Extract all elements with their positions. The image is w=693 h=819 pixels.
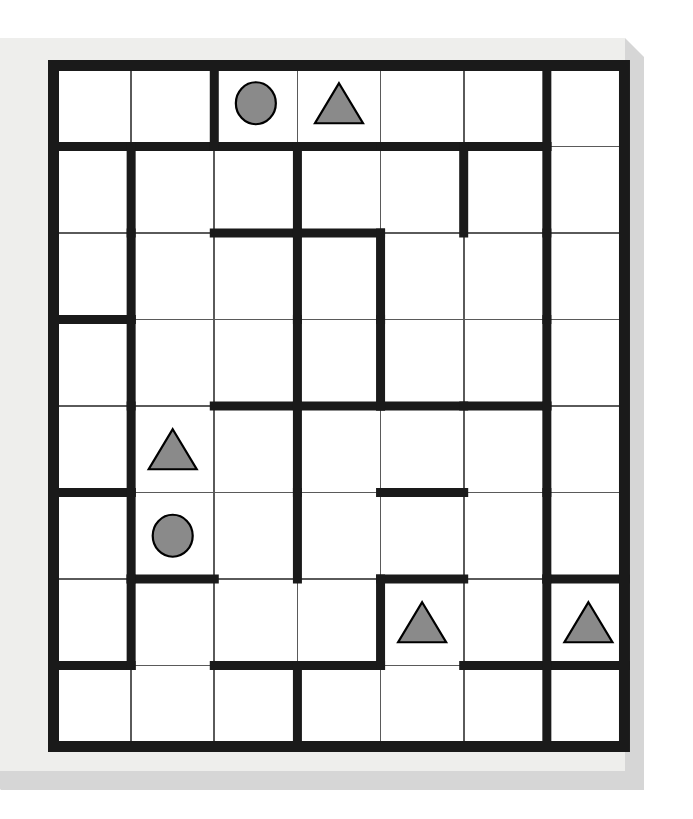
wall-segment-vertical	[293, 661, 302, 752]
wall-segment-horizontal	[376, 575, 468, 584]
wall-segment-horizontal	[293, 661, 385, 670]
wall-segment-vertical	[293, 229, 302, 325]
circle-icon[interactable]	[236, 82, 276, 124]
wall-segment-horizontal	[48, 142, 136, 151]
wall-segment-vertical	[127, 142, 136, 238]
wall-segment-vertical	[542, 60, 551, 151]
maze-board[interactable]	[48, 60, 630, 752]
wall-segment-vertical	[542, 488, 551, 584]
wall-segment-vertical	[542, 229, 551, 325]
wall-segment-horizontal	[48, 661, 136, 670]
maze-svg[interactable]	[48, 60, 630, 752]
wall-segment-vertical	[127, 229, 136, 325]
wall-segment-vertical	[542, 315, 551, 411]
wall-segment-horizontal	[127, 575, 219, 584]
wall-segment-vertical	[127, 575, 136, 671]
wall-segment-horizontal	[127, 142, 219, 151]
wall-segment-horizontal	[48, 315, 136, 324]
wall-segment-horizontal	[376, 488, 468, 497]
wall-segment-horizontal	[459, 661, 551, 670]
wall-segment-horizontal	[210, 661, 302, 670]
wall-segment-vertical	[210, 60, 219, 151]
wall-segment-horizontal	[293, 402, 385, 411]
wall-segment-horizontal	[542, 575, 630, 584]
wall-segment-vertical	[459, 142, 468, 238]
wall-segment-horizontal	[376, 142, 468, 151]
wall-segment-horizontal	[376, 402, 468, 411]
wall-segment-vertical	[293, 142, 302, 238]
wall-segment-vertical	[293, 402, 302, 498]
maze-shape-circle[interactable]	[236, 82, 276, 124]
wall-segment-vertical	[376, 575, 385, 671]
wall-segment-horizontal	[293, 142, 385, 151]
wall-segment-horizontal	[542, 661, 630, 670]
wall-segment-horizontal	[48, 488, 136, 497]
wall-segment-horizontal	[293, 229, 385, 238]
wall-segment-horizontal	[210, 142, 302, 151]
wall-segment-vertical	[127, 315, 136, 411]
wall-segment-vertical	[542, 142, 551, 238]
wall-segment-vertical	[376, 315, 385, 411]
wall-segment-vertical	[293, 315, 302, 411]
wall-segment-horizontal	[459, 402, 551, 411]
wall-segment-vertical	[542, 661, 551, 752]
wall-segment-vertical	[376, 229, 385, 325]
wall-segment-vertical	[542, 402, 551, 498]
maze-shape-circle[interactable]	[153, 515, 193, 557]
wall-segment-vertical	[127, 488, 136, 584]
wall-segment-horizontal	[210, 229, 302, 238]
circle-icon[interactable]	[153, 515, 193, 557]
wall-segment-vertical	[293, 488, 302, 584]
wall-segment-horizontal	[210, 402, 302, 411]
wall-segment-vertical	[542, 575, 551, 671]
wall-segment-vertical	[127, 402, 136, 498]
wall-segment-horizontal	[459, 142, 551, 151]
